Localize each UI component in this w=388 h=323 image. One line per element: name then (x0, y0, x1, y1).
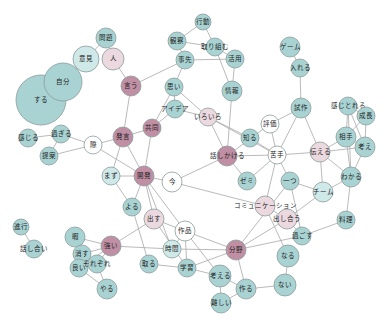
node: 過ごす (292, 227, 313, 245)
node: 難しい (211, 293, 232, 313)
node-label: 取り組む (201, 42, 229, 51)
node-label: ゼミ (240, 176, 254, 185)
node: 作品 (175, 221, 195, 241)
node-label: 作る (239, 284, 253, 293)
node-label: 共同 (145, 123, 159, 132)
network-svg: する自分意見問題人言う行動観察取り組む事先活用思い情報アイデアいろいろ共同発言際… (0, 0, 388, 323)
node: 出す (144, 209, 164, 229)
node: 苦手 (268, 146, 286, 164)
node-label: 評価 (263, 119, 277, 128)
node: 言う (121, 76, 141, 96)
node: 共同 (143, 119, 161, 137)
node: 話し合い (20, 240, 48, 258)
node-label: 考える (210, 272, 231, 280)
edge-layer (21, 22, 366, 303)
node-label: 時間 (165, 245, 179, 253)
node: ない (274, 274, 296, 296)
node-label: 活用 (228, 54, 242, 63)
node-label: 取る (142, 260, 156, 268)
node: 知る (241, 129, 259, 147)
node-label: 今 (169, 177, 176, 186)
node-label: 出す (147, 214, 161, 223)
node: 一つ (281, 172, 299, 190)
node-label: 難しい (211, 298, 232, 307)
node-label: 人 (110, 55, 117, 63)
node: 相手 (336, 127, 356, 147)
node: チーム (313, 182, 334, 202)
node: 情報 (222, 81, 242, 101)
node-label: 意見 (79, 54, 93, 63)
node: 問題 (96, 28, 116, 48)
node-label: わかる (341, 173, 362, 181)
node: 強い (101, 236, 121, 256)
node-label: 分野 (229, 245, 243, 254)
node-label: 消す (75, 249, 89, 258)
node-label: 過ぎる (51, 129, 72, 138)
node: 人 (102, 48, 124, 70)
node-label: 進行 (14, 222, 28, 231)
node: 試作 (291, 98, 311, 118)
node-label: 苦手 (270, 150, 284, 159)
node-label: 思い (167, 83, 181, 91)
node: 自分 (44, 63, 82, 101)
node-label: 過ごす (292, 231, 313, 240)
node-label: まず (104, 171, 118, 180)
node: 提案 (40, 147, 58, 165)
node: 成長 (357, 107, 375, 125)
node-label: する (34, 96, 48, 104)
node-label: ない (278, 281, 292, 289)
node-label: やる (100, 285, 114, 293)
node-label: アイデア (161, 104, 189, 113)
node: 意見 (73, 46, 99, 72)
node: 取る (140, 255, 158, 273)
node: 行動 (195, 14, 211, 30)
node-label: 問題 (99, 34, 113, 42)
node: 入れる (290, 59, 311, 77)
node-label: 話し合い (20, 244, 48, 253)
node-label: 知る (243, 133, 257, 142)
node: 今 (162, 172, 182, 192)
node-label: 観察 (170, 36, 184, 45)
node-label: 料理 (339, 215, 353, 224)
node-label: 情報 (225, 86, 239, 95)
node: 伝える (310, 142, 331, 162)
node-label: 考え (358, 143, 372, 151)
node: 思い (165, 78, 183, 96)
node: まず (102, 167, 120, 185)
node: 考え (355, 137, 375, 157)
node: 暇 (65, 227, 85, 247)
node-label: 強い (104, 242, 118, 250)
node: よる (123, 198, 141, 216)
node: わかる (341, 167, 362, 187)
node-label: 入れる (290, 64, 311, 72)
node-label: よる (125, 203, 139, 211)
node: 事先 (176, 51, 194, 69)
node: ゲーム (280, 37, 301, 57)
node-label: 相手 (339, 132, 353, 141)
node: 観察 (168, 32, 186, 50)
node: 評価 (261, 115, 279, 133)
node: 活用 (226, 50, 244, 68)
node: 過ぎる (51, 125, 72, 143)
node-label: 際 (90, 140, 97, 149)
network-diagram: する自分意見問題人言う行動観察取り組む事先活用思い情報アイデアいろいろ共同発言際… (0, 0, 388, 323)
node-label: チーム (313, 188, 334, 196)
node: 発言 (113, 127, 133, 147)
node: なる (277, 245, 299, 267)
node-label: 暇 (72, 233, 79, 241)
node: やる (97, 279, 117, 299)
node-label: 出し合う (273, 214, 301, 223)
node-label: 自分 (56, 77, 70, 86)
node: 時間 (163, 240, 181, 258)
node: 話しかける (210, 146, 245, 166)
node: 感じる (18, 129, 39, 147)
node-label: 開発 (137, 171, 151, 180)
node: 際 (84, 136, 102, 154)
node: 料理 (337, 211, 355, 229)
node-label: ゲーム (280, 42, 301, 51)
node-label: 学習 (180, 263, 194, 272)
node: ゼミ (238, 172, 256, 190)
node: 作る (236, 279, 256, 299)
node-label: 発言 (116, 132, 130, 141)
node-label: 伝える (310, 147, 331, 156)
